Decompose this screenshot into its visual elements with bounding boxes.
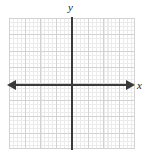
graph-figure: y x	[0, 0, 147, 160]
x-axis-label: x	[137, 79, 142, 92]
x-axis-left-arrowhead-icon	[7, 80, 16, 90]
y-axis-label: y	[68, 1, 73, 14]
x-axis-right-arrowhead-icon	[126, 80, 135, 90]
x-axis-line	[14, 84, 129, 86]
